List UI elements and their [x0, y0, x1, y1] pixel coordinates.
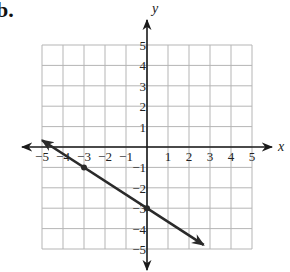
y-tick-label: 3 [140, 79, 147, 94]
x-tick-label: 4 [228, 149, 235, 164]
y-tick-label: 4 [140, 58, 147, 73]
x-tick-label: 5 [249, 149, 256, 164]
y-tick-label: 5 [140, 38, 147, 53]
x-tick-label: −5 [35, 149, 49, 164]
x-tick-label: 1 [165, 149, 172, 164]
y-tick-label: 2 [140, 99, 147, 114]
y-axis-label: y [150, 1, 159, 16]
x-tick-label: 3 [207, 149, 214, 164]
y-tick-label: 1 [140, 120, 147, 135]
plotted-point [144, 205, 150, 211]
plotted-point [81, 164, 87, 170]
y-tick-label: −1 [132, 160, 146, 175]
y-tick-label: −4 [132, 222, 146, 237]
x-axis-label: x [277, 139, 285, 154]
coordinate-plane: xy−5−4−3−2−11234554321−1−2−3−4−5 [0, 0, 290, 272]
x-tick-label: −3 [77, 149, 91, 164]
x-tick-label: 2 [186, 149, 193, 164]
x-tick-label: −2 [98, 149, 112, 164]
y-tick-label: −2 [132, 181, 146, 196]
y-tick-label: −5 [132, 242, 146, 257]
x-tick-label: −1 [119, 149, 133, 164]
